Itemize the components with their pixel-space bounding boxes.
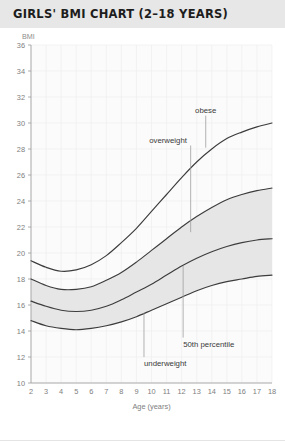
x-tick-label: 2 — [29, 387, 33, 396]
x-axis-tick-labels: 23456789101112131415161718 — [29, 387, 276, 396]
x-axis-title: Age (years) — [132, 402, 170, 411]
bmi-chart-figure: GIRLS' BMI CHART (2–18 YEARS) 1012141618… — [0, 0, 285, 441]
y-tick-label: 26 — [17, 171, 25, 180]
axis-ticks — [28, 45, 31, 383]
annotation-underweight: underweight — [144, 359, 187, 368]
y-tick-label: 34 — [17, 67, 25, 76]
y-tick-label: 32 — [17, 93, 25, 102]
y-tick-label: 10 — [17, 379, 25, 388]
y-tick-label: 16 — [17, 301, 25, 310]
chart-svg: 1012141618202224262830323436 23456789101… — [0, 28, 285, 441]
y-tick-label: 14 — [17, 327, 25, 336]
annotation-obese: obese — [195, 106, 216, 115]
x-tick-label: 3 — [44, 387, 48, 396]
x-tick-label: 6 — [89, 387, 93, 396]
y-tick-label: 22 — [17, 223, 25, 232]
x-tick-label: 18 — [268, 387, 276, 396]
annotation-overweight: overweight — [149, 136, 188, 145]
plot-area: 1012141618202224262830323436 23456789101… — [0, 28, 285, 441]
x-tick-label: 4 — [59, 387, 63, 396]
x-tick-label: 5 — [74, 387, 78, 396]
annotation-50th-percentile: 50th percentile — [183, 340, 234, 349]
x-tick-label: 7 — [104, 387, 108, 396]
y-axis-tick-labels: 1012141618202224262830323436 — [17, 41, 25, 388]
x-tick-label: 16 — [238, 387, 246, 396]
y-tick-label: 30 — [17, 119, 25, 128]
y-tick-label: 28 — [17, 145, 25, 154]
x-tick-label: 14 — [208, 387, 216, 396]
y-tick-label: 24 — [17, 197, 25, 206]
x-tick-label: 9 — [134, 387, 138, 396]
page-title: GIRLS' BMI CHART (2–18 YEARS) — [13, 7, 228, 21]
x-tick-label: 8 — [119, 387, 123, 396]
x-tick-label: 15 — [223, 387, 231, 396]
y-axis-title: BMI — [22, 32, 35, 41]
x-tick-label: 11 — [163, 387, 171, 396]
y-tick-label: 12 — [17, 353, 25, 362]
x-tick-label: 13 — [193, 387, 201, 396]
y-tick-label: 18 — [17, 275, 25, 284]
x-tick-label: 10 — [147, 387, 155, 396]
y-tick-label: 20 — [17, 249, 25, 258]
x-tick-label: 12 — [178, 387, 186, 396]
x-tick-label: 17 — [253, 387, 261, 396]
y-tick-label: 36 — [17, 41, 25, 50]
